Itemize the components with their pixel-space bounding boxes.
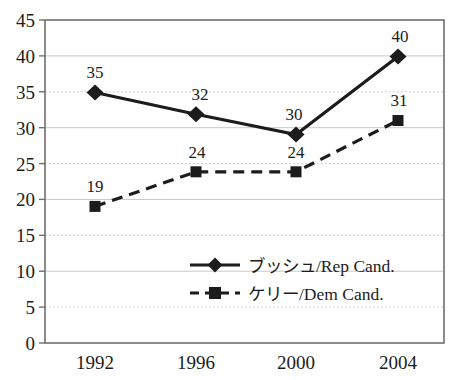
y-tick-label-20: 20	[16, 189, 35, 210]
data-label-rep-1992: 35	[87, 63, 104, 82]
y-tick-label-5: 5	[26, 297, 36, 318]
y-tick-label-0: 0	[26, 333, 36, 354]
y-tick-label-10: 10	[16, 261, 35, 282]
legend-marker-square-icon	[209, 287, 221, 299]
line-chart: 0 5 10 15 20 25 30 35 40 45 1992 1996 20…	[0, 0, 454, 380]
series-dem-marker-1992	[90, 201, 101, 212]
chart-container: 0 5 10 15 20 25 30 35 40 45 1992 1996 20…	[0, 0, 454, 380]
y-tick-label-25: 25	[16, 154, 35, 175]
data-label-dem-1996: 24	[189, 143, 207, 162]
y-tick-label-40: 40	[16, 46, 35, 67]
data-label-rep-2000: 30	[286, 105, 303, 124]
data-label-dem-2000: 24	[288, 143, 306, 162]
series-dem-marker-2004	[393, 115, 404, 126]
data-label-rep-1996: 32	[192, 85, 209, 104]
data-label-dem-2004: 31	[391, 91, 408, 110]
chart-background	[0, 0, 454, 380]
x-tick-label-1992: 1992	[76, 352, 114, 373]
x-tick-label-1996: 1996	[177, 352, 215, 373]
y-tick-label-45: 45	[16, 10, 35, 31]
y-tick-label-15: 15	[16, 225, 35, 246]
data-label-rep-2004: 40	[392, 27, 409, 46]
y-tick-label-35: 35	[16, 82, 35, 103]
legend-label-dem-cand: ケリー/Dem Cand.	[248, 284, 384, 304]
series-dem-marker-1996	[191, 166, 202, 177]
x-tick-label-2004: 2004	[379, 352, 418, 373]
series-dem-marker-2000	[291, 166, 302, 177]
legend-label-rep-cand: ブッシュ/Rep Cand.	[248, 256, 395, 276]
data-label-dem-1992: 19	[87, 177, 104, 196]
y-tick-label-30: 30	[16, 118, 35, 139]
x-tick-label-2000: 2000	[277, 352, 315, 373]
